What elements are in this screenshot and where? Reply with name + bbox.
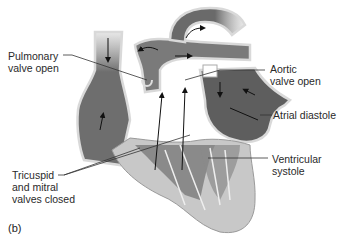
label-tricuspid-mitral-closed: Tricuspid and mitral valves closed <box>12 169 75 205</box>
label-aortic-valve-open: Aortic valve open <box>270 63 321 87</box>
aortic-valve <box>203 65 217 77</box>
panel-label: (b) <box>8 222 21 234</box>
ventricles <box>112 138 255 233</box>
label-ventricular-systole: Ventricular systole <box>272 153 322 177</box>
heart-diagram: Pulmonary valve open Aortic valve open A… <box>0 0 339 240</box>
label-atrial-diastole: Atrial diastole <box>273 109 336 121</box>
aorta <box>170 8 245 42</box>
label-pulmonary-valve-open: Pulmonary valve open <box>8 50 59 74</box>
